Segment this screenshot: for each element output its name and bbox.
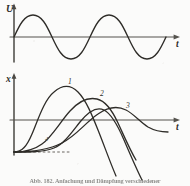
figure-caption: Abb. 182. Anfachung und Dämpfung verschi…	[0, 175, 190, 186]
physics-figure: U t 1 2 3 4 x	[0, 0, 190, 186]
top-plot-x-axis-label: t	[176, 39, 179, 49]
top-plot-y-axis-label: U	[6, 3, 14, 14]
top-plot: U t	[6, 3, 180, 62]
curve-label-1: 1	[68, 77, 72, 86]
bottom-plot-y-axis-label: x	[5, 74, 11, 84]
bottom-plot-x-axis-label: t	[176, 122, 179, 132]
bottom-plot: 1 2 3 4 x t	[5, 73, 180, 180]
curve-label-2: 2	[100, 89, 104, 98]
bottom-plot-y-axis-arrow	[12, 73, 17, 79]
curve-label-3: 3	[125, 101, 130, 110]
